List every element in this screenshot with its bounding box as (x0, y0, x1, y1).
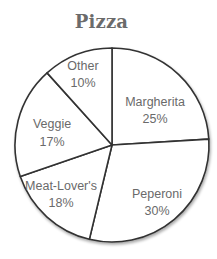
slice-label-value: 25% (142, 112, 167, 126)
slice-label-name: Veggie (33, 117, 71, 131)
slice-label-value: 17% (39, 135, 64, 149)
slice-label-name: Other (67, 59, 98, 73)
slice-label-value: 30% (144, 204, 169, 218)
pie-chart: Margherita25%Peperoni30%Meat-Lover's18%V… (0, 0, 217, 259)
slice-label-value: 18% (48, 196, 73, 210)
slice-label-name: Meat-Lover's (25, 179, 97, 193)
slice-label-value: 10% (70, 76, 95, 90)
slice-label-name: Peperoni (132, 187, 182, 201)
slice-label-name: Margherita (125, 95, 185, 109)
